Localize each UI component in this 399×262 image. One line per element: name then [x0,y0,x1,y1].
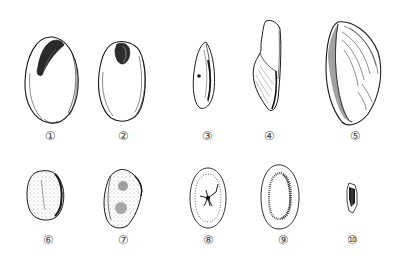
seed-figure-1 [22,33,82,128]
figure-label-8: ⑧ [198,233,218,247]
figure-label-10: ⑩ [342,233,362,247]
figure-label-9: ⑨ [273,233,293,247]
seed-figure-9 [259,163,301,231]
figure-label-7: ⑦ [113,233,133,247]
seed-figure-10 [343,181,361,215]
seed-illustration-plate: ① ② ③ ④ [0,0,399,262]
figure-label-2: ② [113,129,133,143]
seed-figure-2 [95,38,151,126]
figure-label-5: ⑤ [345,129,365,143]
seed-figure-6 [25,168,67,222]
figure-label-1: ① [40,129,60,143]
seed-figure-8 [188,166,228,230]
seed-figure-5 [322,18,386,130]
seed-figure-7 [101,168,145,230]
seed-figure-3 [190,40,220,112]
figure-label-4: ④ [259,129,279,143]
seed-figure-4 [250,19,290,115]
figure-label-3: ③ [197,129,217,143]
figure-label-6: ⑥ [38,233,58,247]
